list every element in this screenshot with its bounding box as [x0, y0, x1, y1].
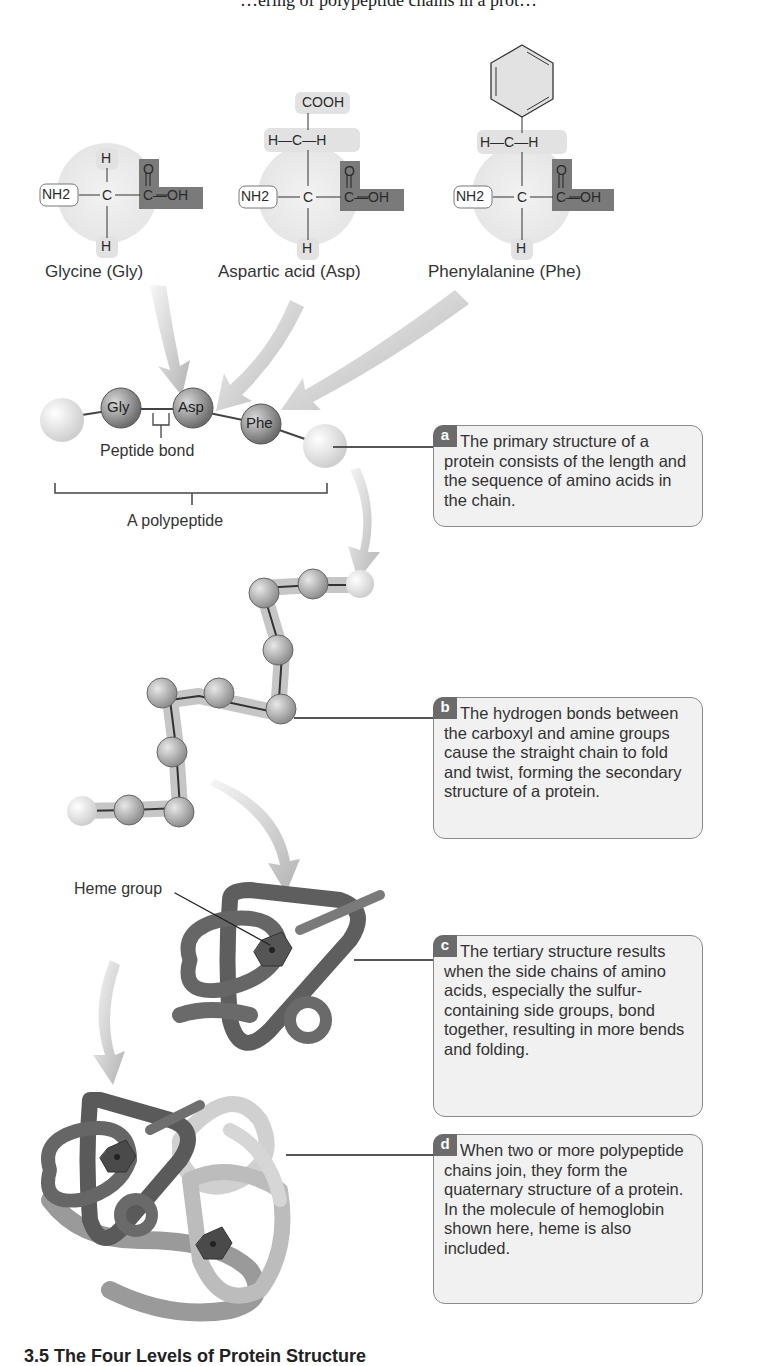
phe-carboxyl: C—OH — [556, 189, 601, 205]
asp-amine: NH2 — [241, 188, 269, 204]
asp-side-cooh: COOH — [302, 94, 344, 110]
asp-carboxyl: C—OH — [344, 189, 389, 205]
aspartic-acid-structure — [239, 92, 404, 260]
heme-group-label: Heme group — [74, 880, 162, 898]
note-badge-c: c — [433, 935, 457, 957]
asp-central-carbon: C — [303, 189, 313, 205]
phenylalanine-label: Phenylalanine (Phe) — [428, 262, 581, 282]
phenylalanine-structure — [454, 45, 614, 260]
note-tertiary-structure: c The tertiary structure results when th… — [433, 935, 703, 1117]
note-badge-d: d — [433, 1134, 457, 1156]
tertiary-structure-ribbon — [175, 890, 380, 1043]
gly-carboxyl-o: O — [143, 161, 154, 177]
bead-phe: Phe — [246, 414, 273, 431]
figure-caption-partial: 3.5 The Four Levels of Protein Structure — [24, 1346, 366, 1366]
note-text-d: When two or more polypeptide chains join… — [444, 1141, 692, 1258]
glycine-label: Glycine (Gly) — [45, 262, 143, 282]
phe-bottom-h: H — [516, 240, 526, 256]
gly-side-h: H — [101, 150, 111, 166]
note-text-c: The tertiary structure results when the … — [444, 942, 692, 1059]
gly-bottom-h: H — [101, 238, 111, 254]
phe-amine: NH2 — [456, 188, 484, 204]
gly-amine: NH2 — [42, 186, 70, 202]
note-secondary-structure: b The hydrogen bonds between the carboxy… — [433, 697, 703, 839]
asp-bottom-h: H — [302, 240, 312, 256]
gly-central-carbon: C — [102, 187, 112, 203]
note-quaternary-structure: d When two or more polypeptide chains jo… — [433, 1134, 703, 1304]
bead-asp: Asp — [178, 398, 204, 415]
phe-central-carbon: C — [517, 189, 527, 205]
note-text-b: The hydrogen bonds between the carboxyl … — [444, 704, 692, 802]
note-badge-a: a — [433, 425, 457, 447]
leader-line-a — [333, 446, 433, 448]
phe-side-ch2: H—C—H — [480, 134, 538, 150]
leader-line-b — [294, 717, 433, 719]
asp-side-ch2: H—C—H — [268, 132, 326, 148]
note-primary-structure: a The primary structure of a protein con… — [433, 425, 703, 527]
note-badge-b: b — [433, 697, 457, 719]
leader-line-d — [286, 1154, 433, 1156]
polypeptide-label: A polypeptide — [127, 512, 223, 530]
phe-carboxyl-o: O — [556, 162, 567, 178]
peptide-bond-label: Peptide bond — [100, 442, 194, 460]
bead-gly: Gly — [107, 398, 130, 415]
leader-line-c — [354, 959, 433, 961]
quaternary-structure-hemoglobin — [48, 1100, 283, 1313]
gly-carboxyl: C—OH — [143, 187, 188, 203]
aspartic-acid-label: Aspartic acid (Asp) — [218, 262, 361, 282]
note-text-a: The primary structure of a protein consi… — [444, 432, 692, 510]
asp-carboxyl-o: O — [344, 163, 355, 179]
